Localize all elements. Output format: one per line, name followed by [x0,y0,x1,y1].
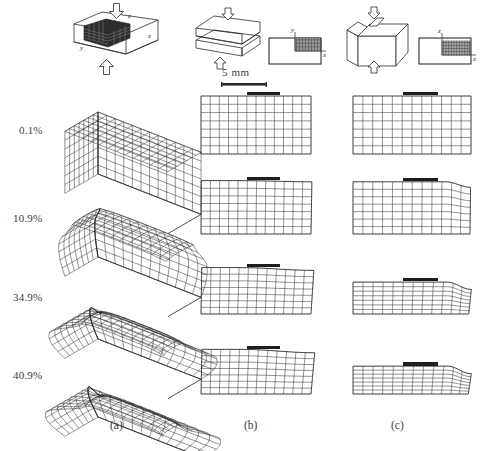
mesh-section-b-row-0 [193,86,319,162]
mesh-section-c-row-1 [345,166,479,242]
axis-label-x: x [322,51,327,59]
indenter-bar [403,92,438,95]
strain-label-1: 10.9% [13,212,42,224]
strain-label-2: 34.9% [13,291,42,303]
svg-text:y: y [79,44,84,52]
column-caption-c: (c) [391,419,404,431]
mesh-section-b-row-2 [193,246,319,322]
indenter-bar [403,178,438,181]
mesh-section-c-row-2 [345,246,479,322]
mesh-section-b-row-1 [193,166,319,242]
column-caption-a: (a) [110,419,123,431]
figure-root: z x y [0,0,494,451]
column-caption-b: (b) [244,419,257,431]
compression-arrow-icon [100,60,114,75]
section-plane-key-b: y x [266,26,330,72]
mesh-section-2d [193,86,319,162]
axis-label-y: y [290,26,295,34]
column-a-panels [52,78,202,408]
mesh-section-2d [193,246,319,322]
axis-label-x: x [472,55,477,63]
strain-label-0: 0.1% [19,124,43,136]
mesh-section-c-row-3 [345,326,479,402]
mesh-section-b-row-3 [193,326,319,402]
indenter-bar [247,177,280,180]
strain-label-3: 40.9% [13,369,42,381]
mesh-section-c-row-0 [345,86,479,162]
specimen-schematic-c [344,8,424,78]
section-plane-key-c: z x [416,26,480,72]
indenter-bar [247,92,280,95]
indenter-bar [403,278,438,281]
indenter-bar [247,346,280,349]
column-c-panels [345,86,485,408]
mesh-section-2d [193,326,319,402]
compression-arrow-icon [368,7,380,19]
indenter-bar [403,362,438,365]
mesh-block-3d-row-3 [52,321,202,441]
mesh-section-2d [345,246,479,322]
specimen-schematic-a: z x y [62,6,178,78]
axis-label-z: z [437,27,441,35]
mesh-section-2d [345,86,479,162]
column-b-panels [193,86,323,408]
mesh-patch [442,41,470,55]
scale-bar-label: 5 mm [222,66,250,78]
indenter-bar [247,264,280,267]
mesh-patch [295,38,321,51]
mesh-block-3d [52,321,202,441]
svg-text:z: z [127,12,131,20]
